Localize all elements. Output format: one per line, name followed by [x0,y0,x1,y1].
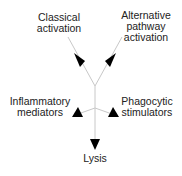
inflammatory-mediators-label: Inflammatory mediators [8,96,72,118]
classical-activation-label: Classical activation [33,12,85,34]
connector-lines [68,37,122,148]
phagocytic-stimulators-label: Phagocytic stimulators [118,96,176,118]
alternative-pathway-label: Alternative pathway activation [118,10,174,43]
inflammatory-arrowhead-icon [72,107,83,117]
lysis-arrowhead-icon [90,139,100,150]
phagocytic-line [95,108,112,114]
lysis-label: Lysis [80,153,110,164]
